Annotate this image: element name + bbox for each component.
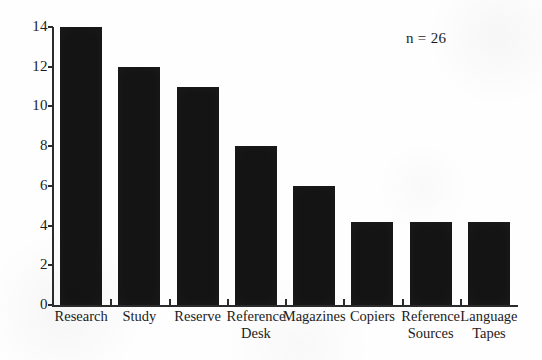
bar [118, 67, 160, 305]
x-axis-tick-mark [402, 299, 404, 307]
y-axis-tick-mark [48, 185, 53, 187]
bar [468, 222, 510, 305]
x-axis-tick-mark [227, 299, 229, 307]
x-axis-tick-mark [110, 299, 112, 307]
x-axis-tick-mark [343, 299, 345, 307]
x-axis-category-labels: ResearchStudyReserveReferenceDeskMagazin… [0, 308, 542, 360]
bar [177, 87, 219, 305]
x-axis-tick-mark [169, 299, 171, 307]
x-axis-tick-mark [285, 299, 287, 307]
sample-size-annotation: n = 26 [406, 30, 446, 47]
bar [293, 186, 335, 305]
bar [60, 27, 102, 305]
bar-chart-figure: 14121086420 ResearchStudyReserveReferenc… [0, 0, 542, 360]
plot-area: 14121086420 ResearchStudyReserveReferenc… [0, 0, 542, 360]
bar [235, 146, 277, 305]
y-axis-tick-mark [48, 66, 53, 68]
bar [351, 222, 393, 305]
bar [410, 222, 452, 305]
y-axis-tick-mark [48, 145, 53, 147]
category-label-line2: Tapes [446, 325, 532, 342]
x-axis-tick-mark [460, 299, 462, 307]
y-axis-tick-mark [48, 304, 53, 306]
y-axis-tick-mark [48, 105, 53, 107]
category-label-line2: Desk [213, 325, 299, 342]
y-axis-tick-mark [48, 264, 53, 266]
category-label-line1: Study [123, 308, 157, 324]
x-axis-category-label: LanguageTapes [446, 308, 532, 342]
category-label-line1: Language [460, 308, 517, 324]
y-axis-tick-mark [48, 26, 53, 28]
y-axis-tick-mark [48, 225, 53, 227]
